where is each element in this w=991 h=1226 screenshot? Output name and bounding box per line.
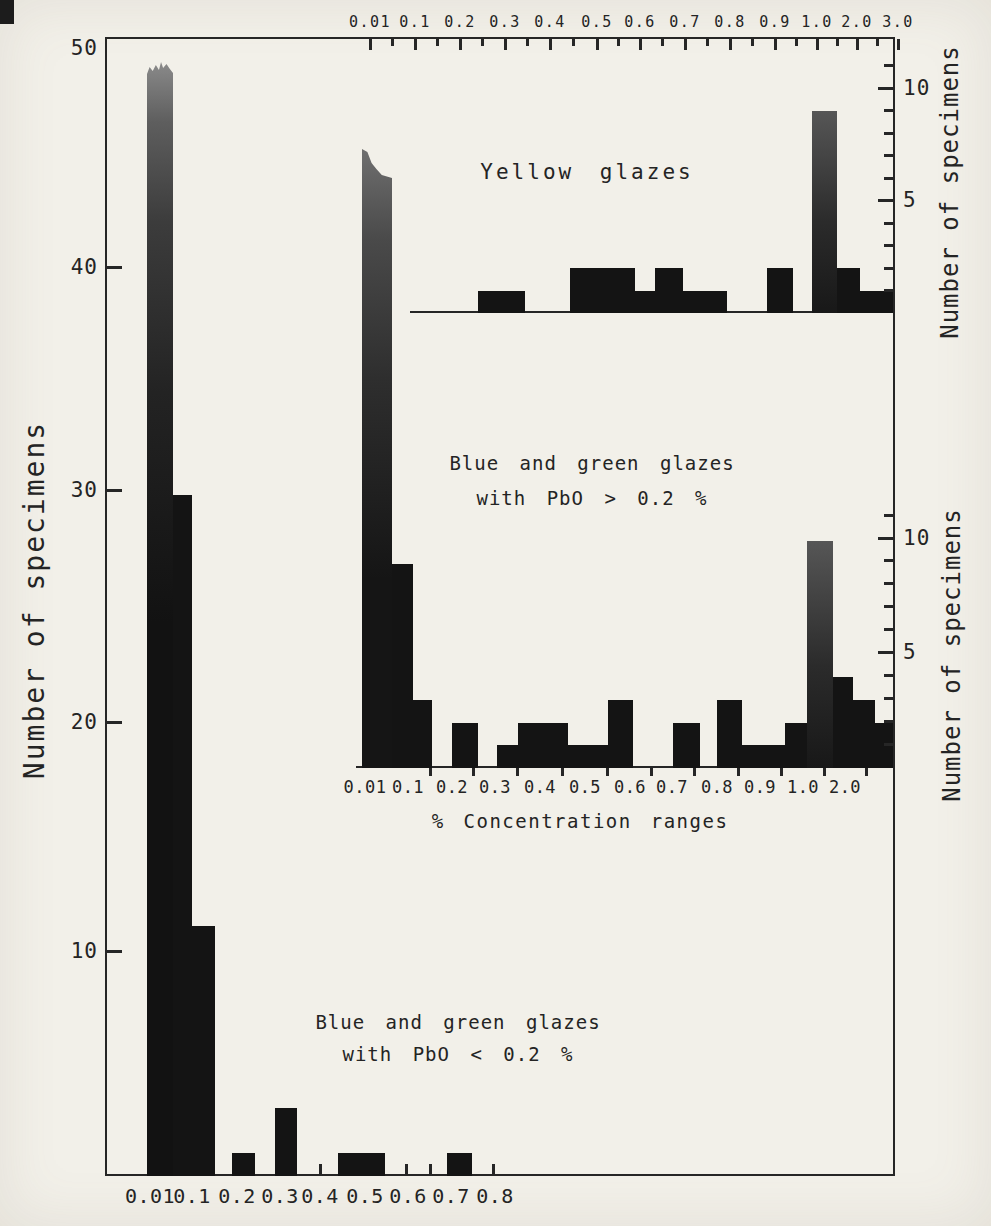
- blue-green-high-bar-0.05-0.1: [392, 564, 413, 768]
- middle-xaxis-tick-label: 2.0: [829, 777, 861, 797]
- yellow-right-axis-unit-tick: [884, 132, 893, 135]
- left-yaxis-title: Number of specimens: [18, 421, 51, 779]
- main-bar-0.2-0.25: [232, 1153, 255, 1176]
- top-axis-major-tick: [414, 39, 417, 50]
- middle-right-axis-unit-tick: [884, 720, 893, 723]
- middle-xaxis-tick: [780, 768, 783, 776]
- yellow-right-axis-major-tick: [878, 87, 893, 90]
- yellow-bar-0.6-0.65: [635, 291, 655, 313]
- middle-right-axis-unit-tick: [884, 697, 893, 700]
- main-panel-title-line1: Blue and green glazes: [315, 1011, 600, 1033]
- top-axis-tick-label: 0.8: [714, 13, 746, 31]
- middle-right-axis-major-tick: [878, 537, 893, 540]
- yellow-bar-0.45-0.6: [570, 268, 635, 313]
- yellow-glazes-title: Yellow glazes: [480, 160, 693, 184]
- top-axis-major-tick: [639, 39, 642, 50]
- top-axis-tick-label: 3.0: [882, 13, 914, 31]
- blue-green-high-bar-1.0-1.5: [807, 541, 833, 768]
- main-xaxis-tick: [319, 1164, 322, 1174]
- middle-right-axis-unit-tick: [884, 559, 893, 562]
- yellow-right-axis-unit-tick: [884, 289, 893, 292]
- blue-green-high-bar-0.45-0.55: [568, 745, 608, 768]
- yellow-right-axis-unit-tick: [884, 267, 893, 270]
- right-yaxis-title-middle: Number of specimens: [938, 508, 966, 802]
- main-xaxis-tick: [492, 1164, 495, 1174]
- main-bar-0.45-0.55: [338, 1153, 385, 1176]
- blue-green-high-bar-2.0-2.5: [853, 700, 875, 768]
- blue-green-high-bar-0.2-0.25: [452, 723, 478, 768]
- top-axis-minor-tick: [391, 39, 394, 46]
- blue-green-high-bar-0.01-0.05: [362, 149, 392, 768]
- top-axis-tick-label: 0.1: [399, 13, 431, 31]
- left-axis-tick-label: 30: [71, 478, 98, 502]
- top-axis-minor-tick: [795, 39, 798, 46]
- blue-green-high-bar-0.7-0.75: [673, 723, 700, 768]
- middle-right-axis-unit-tick: [884, 743, 893, 746]
- top-axis-tick-label: 0.5: [581, 13, 613, 31]
- top-axis-tick-label: 0.7: [669, 13, 701, 31]
- yellow-right-axis-unit-tick: [884, 244, 893, 247]
- middle-xaxis-title: % Concentration ranges: [432, 810, 729, 832]
- top-axis-major-tick: [459, 39, 462, 50]
- main-xaxis-tick-label: 0.7: [432, 1184, 470, 1208]
- yellow-right-axis-unit-tick: [884, 222, 893, 225]
- main-panel-title-line2: with PbO < 0.2 %: [342, 1043, 573, 1065]
- middle-xaxis-tick-label: 0.9: [744, 777, 776, 797]
- middle-xaxis-tick: [865, 768, 868, 776]
- blue-green-high-bar-0.85-0.95: [742, 745, 785, 768]
- middle-xaxis-tick-label: 0.3: [479, 777, 511, 797]
- top-axis-minor-tick: [706, 39, 709, 46]
- middle-xaxis-tick-label: 0.1: [392, 777, 424, 797]
- top-axis-major-tick: [897, 39, 900, 50]
- top-axis-minor-tick: [751, 39, 754, 46]
- top-axis-minor-tick: [526, 39, 529, 46]
- middle-right-axis-unit-tick: [884, 514, 893, 517]
- main-bar-0.01-0.05: [147, 62, 173, 1176]
- yellow-bar-0.65-0.7: [655, 268, 683, 313]
- main-bar-0.05-0.1: [173, 495, 192, 1176]
- scan-artifact: [0, 0, 14, 24]
- top-axis-tick-label: 0.6: [624, 13, 656, 31]
- yellow-bar-0.7-0.8: [683, 291, 727, 313]
- yellow-right-axis-unit-tick: [884, 109, 893, 112]
- middle-panel-title-line1: Blue and green glazes: [449, 452, 734, 474]
- blue-green-high-bar-0.1-0.15: [413, 700, 432, 768]
- middle-right-axis-major-tick: [878, 651, 893, 654]
- middle-xaxis-tick-label: 0.4: [524, 777, 556, 797]
- top-axis-major-tick: [774, 39, 777, 50]
- middle-xaxis-tick-label: 0.2: [436, 777, 468, 797]
- middle-right-axis-unit-tick: [884, 582, 893, 585]
- yellow-right-axis-major-tick: [878, 199, 893, 202]
- top-axis-tick-label: 1.0: [801, 13, 833, 31]
- left-axis-tick: [107, 489, 122, 492]
- left-axis-tick: [107, 950, 122, 953]
- top-axis-major-tick: [596, 39, 599, 50]
- middle-xaxis-tick-label: 1.0: [787, 777, 819, 797]
- middle-xaxis-tick: [472, 768, 475, 776]
- top-axis-minor-tick: [572, 39, 575, 46]
- yellow-bar-2.0-3.0: [860, 291, 893, 313]
- main-xaxis-tick-label: 0.6: [389, 1184, 427, 1208]
- middle-xaxis-tick-label: 0.6: [614, 777, 646, 797]
- top-axis-tick-label: 0.2: [444, 13, 476, 31]
- yellow-right-axis-unit-tick: [884, 64, 893, 67]
- blue-green-high-bar-0.55-0.6: [608, 700, 633, 768]
- main-xaxis-tick-label: 0.5: [346, 1184, 384, 1208]
- top-axis-major-tick: [816, 39, 819, 50]
- top-axis-minor-tick: [481, 39, 484, 46]
- top-axis-minor-tick: [617, 39, 620, 46]
- yellow-right-axis-tick-label: 10: [903, 76, 930, 100]
- main-xaxis-tick-label: 0.1: [173, 1184, 211, 1208]
- middle-right-axis-tick-label: 10: [903, 526, 930, 550]
- middle-panel-title-line2: with PbO > 0.2 %: [476, 487, 707, 509]
- main-plot-frame: [105, 37, 895, 1176]
- middle-right-axis-unit-tick: [884, 674, 893, 677]
- middle-xaxis-tick: [516, 768, 519, 776]
- main-xaxis-tick-label: 0.3: [261, 1184, 299, 1208]
- middle-xaxis-tick: [606, 768, 609, 776]
- middle-xaxis-tick: [737, 768, 740, 776]
- yellow-bar-1.5-2.0: [837, 268, 860, 313]
- top-axis-minor-tick: [876, 39, 879, 46]
- blue-green-high-bar-1.5-2.0: [833, 677, 853, 768]
- main-bar-0.3-0.35: [275, 1108, 297, 1176]
